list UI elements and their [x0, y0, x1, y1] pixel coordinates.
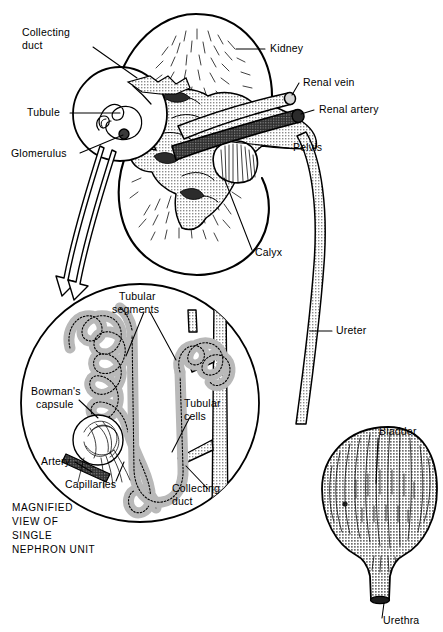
label-ureter: Ureter — [336, 324, 367, 336]
collecting-duct-short-stub — [188, 310, 197, 332]
label-collecting-duct-inset-line-2: duct — [172, 495, 193, 507]
caption-line-2: VIEW OF — [12, 516, 58, 527]
label-tubular-segments-line-2: segments — [112, 303, 159, 315]
label-calyx: Calyx — [255, 246, 283, 258]
label-collecting-duct: Collecting duct — [22, 26, 73, 51]
magnify-arrow — [56, 146, 116, 300]
caption-line-3: SINGLE — [12, 530, 52, 541]
label-collecting-duct-line-2: duct — [22, 39, 43, 51]
caption-text: MAGNIFIED VIEW OF SINGLE NEPHRON UNIT — [12, 502, 95, 555]
label-collecting-duct-inset-line-1: Collecting — [172, 482, 220, 494]
label-tubular-segments: Tubular segments — [112, 290, 159, 315]
label-renal-vein: Renal vein — [303, 76, 355, 88]
bowmans-capsule-circle — [73, 415, 123, 465]
label-tubular-segments-line-1: Tubular — [119, 290, 156, 302]
ureter-tube — [296, 132, 325, 424]
label-bowmans-capsule-line-1: Bowman's — [31, 385, 81, 397]
kidney-diagram-root: Collecting duct Tubule Glomerulus Kidney… — [0, 0, 443, 632]
label-collecting-duct-line-1: Collecting — [22, 26, 70, 38]
label-bowmans-capsule-line-2: capsule — [36, 398, 74, 410]
caption-line-4: NEPHRON UNIT — [12, 544, 95, 555]
leader-renal-vein — [292, 83, 299, 95]
label-renal-artery: Renal artery — [319, 103, 379, 115]
leader-calyx — [224, 178, 252, 250]
ureter — [296, 132, 325, 424]
label-capillaries: Capillaries — [65, 478, 116, 490]
label-bladder: Bladder — [379, 425, 417, 437]
label-tubular-cells-line-2: cells — [184, 410, 206, 422]
label-artery: Artery — [41, 455, 71, 467]
bladder-outline — [322, 427, 437, 600]
anatomy-figure: Collecting duct Tubule Glomerulus Kidney… — [0, 0, 443, 632]
label-kidney: Kidney — [270, 42, 304, 54]
label-tubular-cells-line-1: Tubular — [184, 397, 221, 409]
bladder-group — [322, 427, 437, 604]
urethra-opening — [371, 596, 390, 603]
label-urethra: Urethra — [383, 614, 419, 626]
calyx-dome — [213, 141, 257, 183]
label-pelvis: Pelvis — [293, 141, 322, 153]
renal-calyx — [213, 141, 257, 183]
magnified-glomerulus — [119, 129, 129, 139]
caption-line-1: MAGNIFIED — [12, 502, 73, 513]
figure-caption: MAGNIFIED VIEW OF SINGLE NEPHRON UNIT — [12, 502, 95, 555]
label-glomerulus: Glomerulus — [11, 147, 67, 159]
label-tubule: Tubule — [27, 106, 60, 118]
